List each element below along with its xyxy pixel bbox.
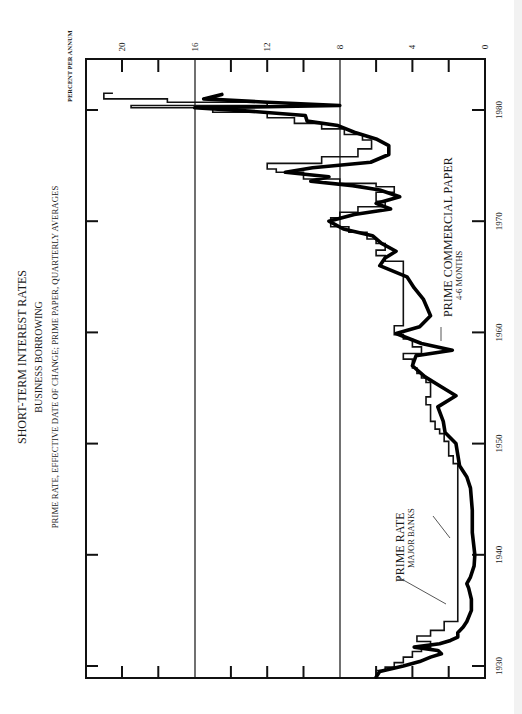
label-commercial-paper: PRIME COMMERCIAL PAPER	[441, 157, 455, 317]
y-tick-label: 20	[117, 42, 127, 52]
leader-prime-rate-1	[433, 516, 450, 538]
label-prime-rate: PRIME RATE	[393, 512, 407, 582]
chart-note: PRIME RATE, EFFECTIVE DATE OF CHANGE; PR…	[50, 186, 60, 529]
series-prime-rate	[104, 93, 458, 677]
y-axis-unit-label: PERCENT PER ANNUM	[66, 30, 73, 102]
chart-subtitle: BUSINESS BORROWING	[33, 301, 44, 412]
x-tick-label: 1940	[494, 545, 504, 564]
y-tick-labels: 048121620	[117, 42, 490, 52]
x-tick-label: 1960	[494, 323, 504, 342]
label-commercial-paper-sub: 4-6 MONTHS	[454, 250, 464, 300]
chart-title: SHORT-TERM INTEREST RATES	[15, 270, 29, 444]
x-tick-labels: 193019401950196019701980	[494, 101, 504, 676]
scan-edge	[514, 0, 522, 714]
interest-rate-chart: SHORT-TERM INTEREST RATES BUSINESS BORRO…	[0, 0, 522, 714]
leader-prime-rate-2	[398, 577, 446, 604]
label-prime-rate-sub: MAJOR BANKS	[406, 508, 416, 568]
y-tick-label: 8	[335, 44, 345, 49]
series-commercial-paper	[195, 94, 475, 677]
y-tick-label: 12	[262, 43, 272, 52]
x-tick-label: 1950	[494, 434, 504, 453]
y-tick-label: 0	[480, 44, 490, 49]
x-tick-label: 1970	[494, 212, 504, 231]
x-tick-label: 1980	[494, 101, 504, 120]
x-tick-label: 1930	[494, 657, 504, 676]
axis-ticks	[86, 59, 485, 678]
y-tick-label: 16	[190, 42, 200, 52]
y-tick-label: 4	[407, 44, 417, 49]
plot-frame	[86, 59, 485, 678]
